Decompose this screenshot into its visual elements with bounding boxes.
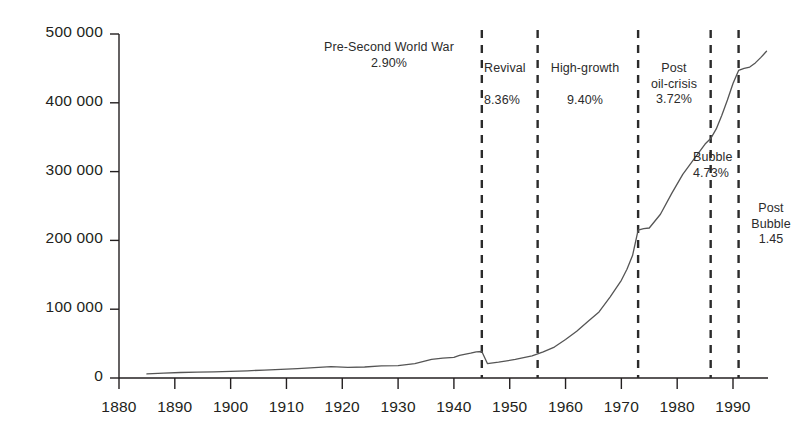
- y-axis-tick-label: 0: [0, 367, 103, 385]
- y-axis-tick-label: 100 000: [0, 298, 103, 316]
- annotation-pre-second-world-war-value: 2.90%: [287, 56, 491, 72]
- annotation-post-bubble-label-line2: Bubble: [743, 217, 799, 233]
- annotation-high-growth-value: 9.40%: [538, 93, 632, 109]
- annotation-post-oil-crisis: Post oil-crisis 3.72%: [641, 61, 707, 108]
- annotation-pre-second-world-war-label: Pre-Second World War: [287, 40, 491, 56]
- x-axis-tick-label: 1990: [698, 398, 768, 416]
- annotation-bubble-label: Bubble: [693, 150, 751, 166]
- annotation-revival-label: Revival: [484, 61, 532, 77]
- annotation-high-growth: High-growth 9.40%: [538, 61, 632, 108]
- annotation-post-bubble: Post Bubble 1.45: [743, 201, 799, 248]
- x-axis-ticks: [119, 378, 733, 389]
- annotation-post-oil-crisis-label-line2: oil-crisis: [641, 77, 707, 93]
- y-axis-ticks: [110, 34, 119, 378]
- annotation-bubble-value: 4.73%: [693, 166, 751, 182]
- annotation-bubble: Bubble 4.73%: [693, 150, 751, 181]
- y-axis-tick-label: 200 000: [0, 229, 103, 247]
- annotation-post-oil-crisis-value: 3.72%: [641, 92, 707, 108]
- annotation-revival-value: 8.36%: [484, 93, 532, 109]
- y-axis-tick-label: 300 000: [0, 161, 103, 179]
- annotation-high-growth-label: High-growth: [538, 61, 632, 77]
- annotation-pre-second-world-war: Pre-Second World War 2.90%: [287, 40, 491, 71]
- annotation-post-oil-crisis-label-line1: Post: [641, 61, 707, 77]
- annotation-revival: Revival 8.36%: [484, 61, 532, 108]
- annotation-post-bubble-value: 1.45: [743, 232, 799, 248]
- chart-container: 0100 000200 000300 000400 000500 000 188…: [0, 0, 806, 439]
- y-axis-tick-label: 500 000: [0, 23, 103, 41]
- y-axis-tick-label: 400 000: [0, 92, 103, 110]
- annotation-post-bubble-label-line1: Post: [743, 201, 799, 217]
